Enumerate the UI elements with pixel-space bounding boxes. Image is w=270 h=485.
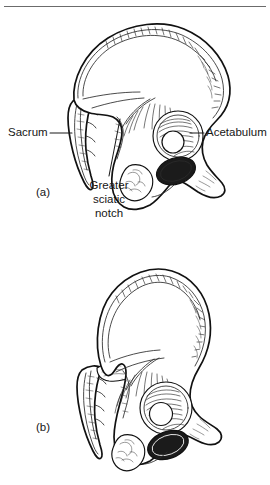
sacrum-notch-2	[87, 122, 96, 128]
panel-label-b: (b)	[36, 421, 50, 435]
annotation-label-sacrum: Sacrum	[8, 126, 48, 140]
annotation-label-acetabulum: Acetabulum	[206, 126, 267, 140]
annotation-label-greater-sciatic-notch: Greater sciatic notch	[72, 178, 146, 220]
notch-label-line-3: notch	[72, 206, 146, 220]
notch-label-line-2: sciatic	[72, 192, 146, 206]
panel-b-drawing	[77, 269, 221, 471]
notch-label-line-1: Greater	[72, 178, 146, 192]
sacrum-notch-b2	[96, 391, 105, 397]
anatomy-illustration	[0, 0, 270, 485]
acetabular-fossa-b	[150, 403, 173, 426]
acetabular-fossa-a	[162, 131, 184, 153]
sacrum-notch-3	[86, 136, 95, 142]
sacrum-notch-b4	[96, 419, 104, 425]
figure-root: Sacrum Acetabulum Greater sciatic notch …	[0, 0, 270, 485]
panel-label-a: (a)	[36, 186, 50, 200]
sacrum-notch-b3	[95, 405, 104, 411]
sacrum-notch-4	[87, 150, 95, 156]
